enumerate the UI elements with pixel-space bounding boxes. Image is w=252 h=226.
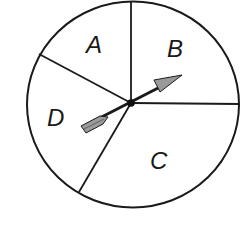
pivot-icon	[127, 99, 135, 107]
spinner-diagram: A B C D	[0, 0, 252, 226]
section-label-b: B	[167, 35, 183, 62]
divider-b-c	[131, 103, 239, 104]
spinner-svg: A B C D	[0, 0, 252, 226]
section-label-c: C	[150, 147, 168, 174]
section-label-a: A	[84, 31, 102, 58]
arrowhead-icon	[154, 75, 182, 92]
divider-d-a	[39, 54, 131, 103]
section-label-d: D	[47, 104, 64, 131]
arrow-tail-icon	[81, 116, 108, 133]
